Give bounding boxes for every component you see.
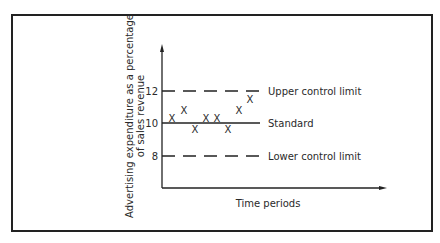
lower-control-limit-label: Lower control limit (268, 151, 361, 162)
data-point: X (214, 113, 221, 124)
data-point: X (247, 94, 254, 105)
standard-label: Standard (268, 118, 314, 129)
data-point: X (203, 113, 210, 124)
data-point: X (181, 105, 188, 116)
tick-8: 8 (152, 151, 158, 162)
control-chart: Advertising expenditure as a percentage … (0, 0, 440, 243)
data-point: X (192, 124, 199, 135)
data-point: X (225, 124, 232, 135)
upper-control-limit-label: Upper control limit (268, 86, 361, 97)
data-point: X (169, 113, 176, 124)
x-axis-label: Time periods (235, 198, 301, 209)
data-points: X X X X X X X X (169, 94, 254, 135)
y-axis-arrow-icon (160, 44, 164, 52)
tick-10: 10 (145, 118, 158, 129)
tick-12: 12 (145, 86, 158, 97)
x-axis-arrow-icon (379, 186, 387, 190)
data-point: X (236, 105, 243, 116)
y-axis-label-line1: Advertising expenditure as a percentage (124, 14, 135, 218)
